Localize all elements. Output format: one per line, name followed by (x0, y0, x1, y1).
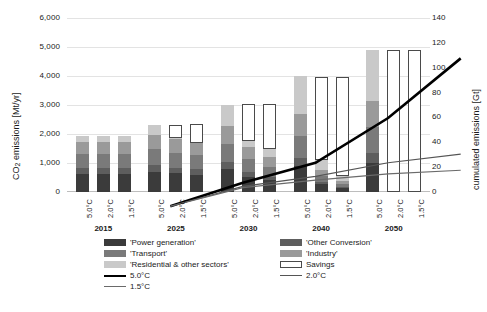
bar-segment (76, 154, 89, 168)
legend-label: 'Power generation' (130, 238, 196, 247)
legend-item: 'Other Conversion' (280, 238, 372, 247)
legend-swatch (280, 261, 302, 268)
legend-label: 1.5°C (130, 282, 150, 291)
legend-swatch (104, 239, 126, 246)
stacked-bar (118, 136, 131, 192)
legend-label: 5.0°C (130, 271, 150, 280)
x-tick-scenario: 5.0°C (158, 199, 166, 218)
x-group-label-2040: 2040 (281, 225, 361, 233)
legend-item: 'Transport' (104, 249, 167, 258)
legend-label: 2.0°C (306, 271, 326, 280)
legend-item: 'Industry' (280, 249, 338, 258)
y-tick-left: 3,000 (14, 101, 60, 109)
x-tick-scenario: 5.0°C (86, 199, 94, 218)
chart-figure: CO2 emissions [Mt/yr] cumulated emission… (0, 0, 487, 312)
x-group-label-2015: 2015 (63, 225, 143, 233)
x-tick-scenario: 1.5°C (200, 199, 208, 218)
x-tick-scenario: 2.0°C (325, 199, 333, 218)
y-tick-left: 6,000 (14, 14, 60, 22)
bar-segment (118, 154, 131, 168)
legend-swatch (104, 286, 126, 287)
y-tick-right: 140 (432, 14, 472, 22)
bar-segment (118, 142, 131, 155)
x-group-label-2050: 2050 (354, 225, 434, 233)
x-tick-scenario: 1.5°C (273, 199, 281, 218)
legend-swatch (104, 250, 126, 257)
y-tick-left: 4,000 (14, 72, 60, 80)
plot-area (67, 18, 430, 192)
legend-swatch (104, 275, 126, 277)
x-tick-scenario: 1.5°C (128, 199, 136, 218)
x-group-label-2025: 2025 (136, 225, 216, 233)
legend-label: 'Other Conversion' (306, 238, 372, 247)
bar-segment (97, 154, 110, 168)
bar-segment (97, 142, 110, 155)
trend-lines (134, 36, 487, 210)
stacked-bar (97, 136, 110, 192)
legend-swatch (280, 275, 302, 276)
gridline (67, 18, 430, 19)
legend-label: 'Industry' (306, 249, 338, 258)
y-tick-left: 1,000 (14, 159, 60, 167)
x-tick-scenario: 2.0°C (107, 199, 115, 218)
legend-item: 'Power generation' (104, 238, 196, 247)
legend-label: Savings (306, 260, 334, 269)
legend-item: 2.0°C (280, 271, 326, 280)
y-tick-left: 5,000 (14, 43, 60, 51)
x-tick-scenario: 5.0°C (231, 199, 239, 218)
x-tick-scenario: 1.5°C (418, 199, 426, 218)
y-tick-left: 0 (14, 188, 60, 196)
x-tick-scenario: 1.5°C (346, 199, 354, 218)
y-tick-left: 2,000 (14, 130, 60, 138)
legend-swatch (104, 261, 126, 268)
legend-label: 'Residential & other sectors' (130, 260, 229, 269)
bar-segment (118, 174, 131, 192)
legend-item: Savings (280, 260, 334, 269)
stacked-bar (76, 136, 89, 192)
legend-label: 'Transport' (130, 249, 167, 258)
x-group-label-2030: 2030 (209, 225, 289, 233)
legend-item: 5.0°C (104, 271, 150, 280)
trend-line-5-0 (170, 58, 460, 206)
x-tick-scenario: 2.0°C (397, 199, 405, 218)
x-tick-scenario: 2.0°C (252, 199, 260, 218)
legend-swatch (280, 250, 302, 257)
legend-swatch (280, 239, 302, 246)
chart-legend: 'Power generation''Transport''Residentia… (104, 238, 434, 300)
x-tick-scenario: 2.0°C (179, 199, 187, 218)
x-tick-scenario: 5.0°C (304, 199, 312, 218)
legend-item: 1.5°C (104, 282, 150, 291)
bar-segment (97, 174, 110, 192)
legend-item: 'Residential & other sectors' (104, 260, 229, 269)
bar-segment (76, 142, 89, 155)
y-axis-left-title-pre: CO (11, 167, 21, 181)
x-tick-scenario: 5.0°C (376, 199, 384, 218)
bar-segment (76, 174, 89, 192)
